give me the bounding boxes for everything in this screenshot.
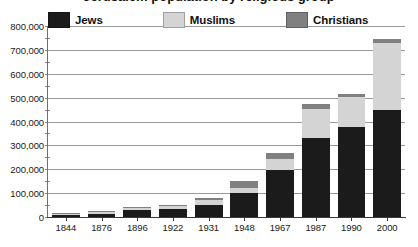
bar-segment-muslims-1967 — [266, 159, 294, 170]
bar-segment-jews-1948 — [230, 193, 258, 217]
legend-label-muslims: Muslims — [190, 14, 235, 26]
bar-1967 — [266, 153, 294, 217]
bar-2000 — [373, 39, 401, 217]
x-tick-mark — [316, 217, 317, 221]
x-axis-labels: 1844187618961922193119481967198719902000 — [48, 222, 405, 238]
bar-segment-jews-1990 — [338, 127, 366, 217]
legend-item-muslims: Muslims — [163, 12, 235, 28]
x-tick-mark — [387, 217, 388, 221]
x-tick-label-1844: 1844 — [55, 222, 76, 233]
bar-series-group — [48, 26, 405, 217]
bar-1948 — [230, 181, 258, 217]
bar-segment-jews-2000 — [373, 110, 401, 217]
x-tick-mark — [137, 217, 138, 221]
legend-item-jews: Jews — [48, 12, 103, 28]
plot-area — [48, 26, 405, 217]
x-tick-mark — [244, 217, 245, 221]
legend-swatch-christians-icon — [286, 12, 308, 28]
x-tick-label-1931: 1931 — [198, 222, 219, 233]
y-tick-label: 600,000 — [10, 68, 44, 79]
y-axis-labels: 0100,000200,000300,000400,000500,000600,… — [0, 26, 44, 217]
bar-1931 — [195, 198, 223, 217]
bar-segment-muslims-2000 — [373, 43, 401, 110]
y-tick-label: 100,000 — [10, 188, 44, 199]
y-tick-label: 400,000 — [10, 116, 44, 127]
bar-segment-jews-1896 — [123, 210, 151, 217]
x-axis-ticks — [48, 217, 405, 221]
y-tick-label: 800,000 — [10, 21, 44, 32]
x-tick-label-1990: 1990 — [341, 222, 362, 233]
x-tick-mark — [209, 217, 210, 221]
bar-segment-jews-1931 — [195, 205, 223, 217]
bar-1990 — [338, 94, 366, 217]
bar-segment-jews-1922 — [159, 209, 187, 217]
x-tick-label-1876: 1876 — [91, 222, 112, 233]
legend-label-christians: Christians — [313, 14, 368, 26]
x-tick-label-1896: 1896 — [127, 222, 148, 233]
y-tick-label: 0 — [39, 212, 44, 223]
bar-segment-muslims-1987 — [302, 109, 330, 139]
x-tick-label-1948: 1948 — [234, 222, 255, 233]
x-tick-mark — [102, 217, 103, 221]
chart-title-cropped: Jerusalem population by religious group — [0, 0, 418, 7]
page-title: Jerusalem population by religious group — [83, 0, 334, 4]
x-tick-label-1967: 1967 — [270, 222, 291, 233]
x-tick-mark — [280, 217, 281, 221]
bar-1896 — [123, 207, 151, 217]
legend-swatch-muslims-icon — [163, 12, 185, 28]
x-tick-label-1987: 1987 — [305, 222, 326, 233]
y-tick-label: 200,000 — [10, 164, 44, 175]
bar-segment-christians-1948 — [230, 181, 258, 188]
bar-segment-muslims-1990 — [338, 97, 366, 126]
y-tick-label: 700,000 — [10, 44, 44, 55]
x-tick-mark — [173, 217, 174, 221]
bar-segment-jews-1987 — [302, 138, 330, 217]
chart-container: Jerusalem population by religious group … — [0, 0, 418, 247]
bar-segment-jews-1967 — [266, 170, 294, 217]
legend-swatch-jews-icon — [48, 12, 70, 28]
legend-label-jews: Jews — [75, 14, 103, 26]
x-tick-label-2000: 2000 — [377, 222, 398, 233]
x-tick-label-1922: 1922 — [163, 222, 184, 233]
y-tick-label: 500,000 — [10, 92, 44, 103]
legend-item-christians: Christians — [286, 12, 368, 28]
x-tick-mark — [66, 217, 67, 221]
y-tick-label: 300,000 — [10, 140, 44, 151]
bar-1922 — [159, 205, 187, 217]
bar-1987 — [302, 104, 330, 217]
x-tick-mark — [351, 217, 352, 221]
chart-legend: JewsMuslimsChristians — [48, 11, 378, 28]
